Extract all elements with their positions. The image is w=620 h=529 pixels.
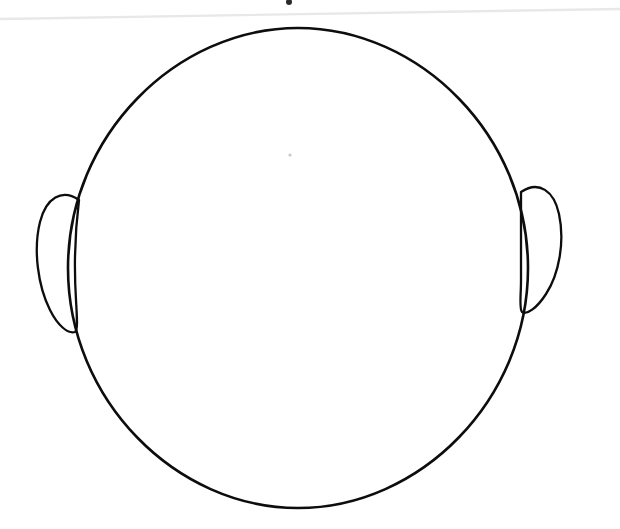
scanned-page: Outline drawing of a blank human head fa…	[0, 0, 620, 529]
faint-speck	[288, 153, 291, 156]
face-outline-drawing	[0, 0, 620, 529]
